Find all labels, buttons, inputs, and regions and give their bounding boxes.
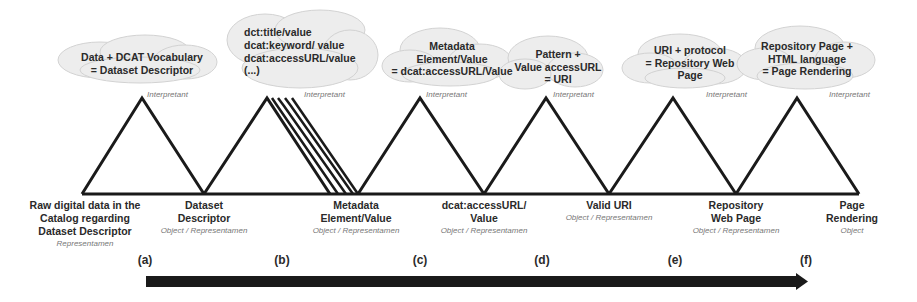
cloud-e-text: URI + protocol = Repository Web Page [640, 44, 740, 82]
node-role: Object / Representamen [313, 225, 400, 236]
node-line: Page [826, 199, 878, 212]
node-valid-uri: Valid URI Object / Representamen [566, 199, 653, 223]
triangle-b-layer-2 [272, 98, 338, 194]
cloud-line: = Repository Web [640, 57, 740, 70]
cloud-line: (...) [244, 64, 355, 77]
cloud-line: = Dataset Descriptor [72, 64, 212, 77]
node-line: Dataset [161, 199, 248, 212]
node-line: Web Page [693, 212, 780, 225]
triangle-b-layer-3 [278, 98, 346, 194]
cloud-line: dct:title/value [244, 26, 355, 39]
cloud-line: Pattern + [510, 48, 606, 61]
node-role: Object / Representamen [566, 212, 653, 223]
cloud-line: Element/Value [390, 53, 514, 66]
node-raw-data: Raw digital data in the Catalog regardin… [30, 199, 141, 249]
step-label-c: (c) [413, 253, 428, 267]
node-line: Element/Value [313, 212, 400, 225]
step-label-a: (a) [138, 253, 153, 267]
node-role: Object [826, 225, 878, 236]
node-page-rendering: Page Rendering Object [826, 199, 878, 236]
node-role: Representamen [30, 238, 141, 249]
node-metadata-element: Metadata Element/Value Object / Represen… [313, 199, 400, 236]
cloud-line: Metadata [390, 40, 514, 53]
cloud-line: URI + protocol [640, 44, 740, 57]
cloud-line: dcat:keyword/ value [244, 39, 355, 52]
cloud-line: Data + DCAT Vocabulary [72, 51, 212, 64]
node-line: Repository [693, 199, 780, 212]
triangle-c-icon [358, 98, 484, 194]
triangle-d-icon [484, 98, 609, 194]
cloud-d-text: Pattern + Value accessURL = URI [510, 48, 606, 86]
triangle-a-icon [82, 98, 204, 194]
interpretant-label-b: Interpretant [304, 90, 345, 99]
node-role: Object / Representamen [161, 225, 248, 236]
interpretant-label-f: Interpretant [829, 90, 870, 99]
step-label-e: (e) [668, 253, 683, 267]
step-label-d: (d) [534, 253, 549, 267]
cloud-line: Repository Page + [752, 40, 862, 53]
cloud-line: dcat:accessURL/value [244, 52, 355, 65]
node-line: dcat:accessURL/ [441, 199, 528, 212]
semiotic-process-diagram: Data + DCAT Vocabulary = Dataset Descrip… [0, 0, 917, 302]
interpretant-label-a: Interpretant [147, 90, 188, 99]
node-line: Value [441, 212, 528, 225]
triangle-f-icon [736, 98, 859, 194]
cloud-a-text: Data + DCAT Vocabulary = Dataset Descrip… [72, 51, 212, 76]
node-line: Metadata [313, 199, 400, 212]
process-arrow-icon [146, 273, 808, 290]
node-line: Descriptor [161, 212, 248, 225]
node-role: Object / Representamen [693, 225, 780, 236]
node-line: Raw digital data in the [30, 199, 141, 212]
cloud-line: Value accessURL [510, 61, 606, 74]
cloud-line: Page [640, 69, 740, 82]
node-dataset-descriptor: Dataset Descriptor Object / Representame… [161, 199, 248, 236]
cloud-b-text: dct:title/value dcat:keyword/ value dcat… [244, 26, 355, 77]
node-repository-web-page: Repository Web Page Object / Representam… [693, 199, 780, 236]
node-line: Catalog regarding [30, 212, 141, 225]
cloud-line: = dcat:accessURL/Value [390, 65, 514, 78]
cloud-line: = URI [510, 73, 606, 86]
cloud-c-text: Metadata Element/Value = dcat:accessURL/… [390, 40, 514, 78]
cloud-f-text: Repository Page + HTML language = Page R… [752, 40, 862, 78]
triangle-e-icon [609, 98, 736, 194]
step-label-f: (f) [800, 253, 812, 267]
interpretant-label-d: Interpretant [553, 90, 594, 99]
step-label-b: (b) [274, 253, 289, 267]
node-line: Dataset Descriptor [30, 225, 141, 238]
node-accessurl-value: dcat:accessURL/ Value Object / Represent… [441, 199, 528, 236]
cloud-line: = Page Rendering [752, 65, 862, 78]
node-line: Rendering [826, 212, 878, 225]
semiotic-triangles [82, 98, 859, 194]
interpretant-label-c: Interpretant [426, 90, 467, 99]
cloud-line: HTML language [752, 53, 862, 66]
interpretant-label-e: Interpretant [706, 90, 747, 99]
node-role: Object / Representamen [441, 225, 528, 236]
node-line: Valid URI [566, 199, 653, 212]
triangle-b-layer-5 [292, 98, 358, 194]
